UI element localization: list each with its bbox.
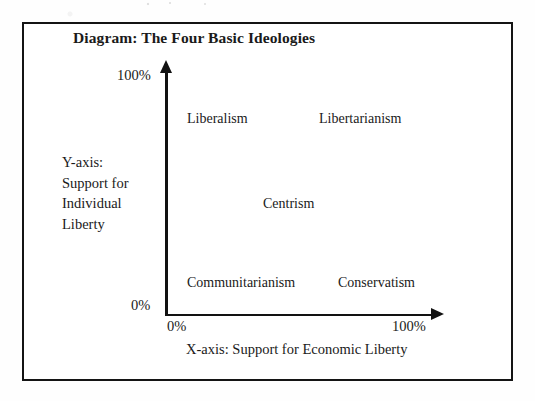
y-axis-max-tick-label: 100% [117, 68, 151, 83]
figure-title: Diagram: The Four Basic Ideologies [73, 29, 315, 47]
diagram-page: Diagram: The Four Basic Ideologies 100% … [0, 0, 535, 401]
x-axis-caption: X-axis: Support for Economic Liberty [186, 341, 407, 358]
y-axis-caption-line-4: Liberty [62, 214, 128, 235]
label-centrism: Centrism [263, 197, 314, 211]
y-axis-caption-line-1: Y-axis: [62, 152, 128, 173]
x-axis-line [165, 314, 437, 317]
y-axis-line [165, 67, 168, 316]
scan-noise-artifact [0, 0, 535, 20]
x-axis-max-tick-label: 100% [392, 319, 426, 334]
label-liberalism: Liberalism [187, 112, 248, 126]
x-axis-min-tick-label: 0% [167, 319, 186, 334]
y-axis-caption: Y-axis: Support for Individual Liberty [62, 152, 128, 234]
y-axis-arrowhead-icon [160, 60, 172, 73]
label-libertarianism: Libertarianism [319, 112, 401, 126]
label-communitarianism: Communitarianism [187, 276, 295, 290]
y-axis-caption-line-2: Support for [62, 173, 128, 194]
y-axis-caption-line-3: Individual [62, 193, 128, 214]
label-conservatism: Conservatism [338, 276, 415, 290]
x-axis-arrowhead-icon [431, 308, 444, 320]
y-axis-min-tick-label: 0% [131, 298, 150, 313]
